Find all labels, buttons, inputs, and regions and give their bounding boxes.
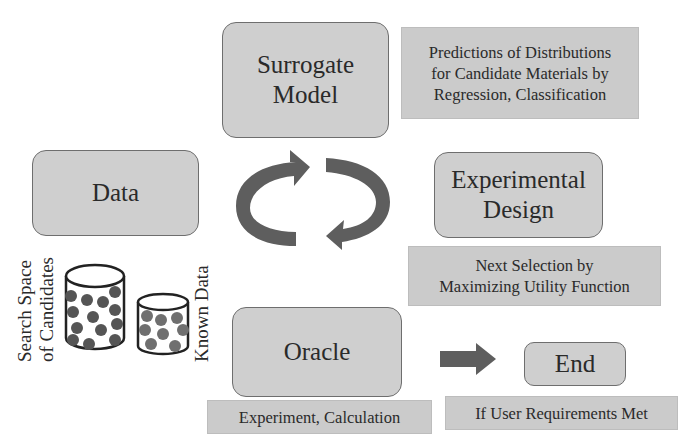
end-note: If User Requirements Met xyxy=(445,396,678,430)
experimental-design-note: Next Selection by Maximizing Utility Fun… xyxy=(408,246,661,306)
data-node-label: Data xyxy=(92,178,139,208)
right-arrow-icon xyxy=(440,343,498,375)
data-node: Data xyxy=(32,150,199,236)
oracle-node-label: Oracle xyxy=(284,337,351,367)
known-data-database-icon xyxy=(135,292,191,356)
design-note-line-1: Next Selection by xyxy=(439,255,630,276)
surrogate-model-line-1: Surrogate xyxy=(257,50,354,80)
surrogate-note-line-3: Regression, Classification xyxy=(429,84,611,105)
experimental-design-line-1: Experimental xyxy=(451,165,586,195)
end-node: End xyxy=(524,342,626,386)
candidates-database-icon xyxy=(63,262,127,352)
experimental-design-node: Experimental Design xyxy=(434,152,603,238)
surrogate-note-line-1: Predictions of Distributions xyxy=(429,42,611,63)
surrogate-model-note: Predictions of Distributions for Candida… xyxy=(401,27,639,119)
search-space-line-2: of Candidates xyxy=(36,257,58,362)
surrogate-model-line-2: Model xyxy=(257,80,354,110)
cycle-arrows-icon xyxy=(230,150,400,260)
search-space-line-1: Search Space xyxy=(14,257,36,362)
oracle-note-text: Experiment, Calculation xyxy=(239,407,400,428)
oracle-note: Experiment, Calculation xyxy=(207,400,432,434)
design-note-line-2: Maximizing Utility Function xyxy=(439,276,630,297)
end-note-text: If User Requirements Met xyxy=(475,403,648,424)
surrogate-model-node: Surrogate Model xyxy=(222,22,389,138)
known-data-text: Known Data xyxy=(191,265,212,362)
oracle-node: Oracle xyxy=(232,307,402,397)
known-data-label: Known Data xyxy=(192,265,212,362)
surrogate-note-line-2: for Candidate Materials by xyxy=(429,63,611,84)
end-node-label: End xyxy=(555,349,595,379)
search-space-label: Search Space of Candidates xyxy=(14,257,58,362)
experimental-design-line-2: Design xyxy=(451,195,586,225)
